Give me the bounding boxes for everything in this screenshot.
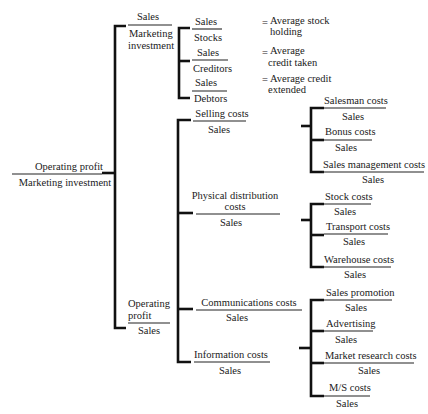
creditors-numerator: Sales: [197, 47, 219, 58]
creditors-denominator: Creditors: [193, 63, 232, 74]
info-denominator: Sales: [219, 365, 241, 376]
ratio-advertising: Advertising Sales: [324, 318, 376, 345]
selling-costs-numerator: Selling costs: [195, 108, 248, 119]
ratio-sales-marketing-investment: Sales Marketing investment: [128, 11, 174, 51]
level1-bracket: [115, 26, 126, 328]
comm-denominator: Sales: [226, 312, 248, 323]
bonus-numerator: Bonus costs: [325, 126, 375, 137]
stocks-numerator: Sales: [195, 16, 217, 27]
salesman-numerator: Salesman costs: [324, 95, 388, 106]
ratio-sales-creditors: Sales Creditors = Average credit taken: [192, 45, 318, 74]
promo-denominator: Sales: [345, 302, 367, 313]
ratio-information-costs: Information costs Sales: [194, 349, 270, 376]
ratio-salesman-costs: Salesman costs Sales: [324, 95, 388, 122]
stocks-meaning-line1: Average stock: [270, 15, 330, 26]
stocks-meaning-line2: holding: [270, 26, 303, 37]
ms-denominator: Sales: [336, 398, 358, 409]
comm-numerator: Communications costs: [201, 297, 296, 308]
bonus-denominator: Sales: [335, 142, 357, 153]
stocks-denominator: Stocks: [194, 32, 222, 43]
transport-denominator: Sales: [343, 236, 365, 247]
op-numerator-line1: Operating: [128, 298, 171, 309]
ratio-transport-costs: Transport costs Sales: [324, 221, 390, 247]
info-numerator: Information costs: [194, 349, 268, 360]
pd-denominator: Sales: [220, 217, 242, 228]
op-denominator: Sales: [138, 325, 160, 336]
mi-numerator: Sales: [137, 11, 159, 22]
ratio-sales-management-costs: Sales management costs Sales: [322, 159, 425, 185]
ratio-sales-debtors: Sales Debtors = Average credit extended: [192, 73, 331, 104]
advertising-numerator: Advertising: [326, 318, 376, 329]
ratio-market-research-costs: Market research costs Sales: [324, 350, 417, 376]
ratio-communications-costs: Communications costs Sales: [196, 297, 302, 323]
op-numerator-line2: profit: [128, 310, 151, 321]
promo-numerator: Sales promotion: [326, 287, 395, 298]
selling-costs-denominator: Sales: [208, 124, 230, 135]
root-ratio: Operating profit Marketing investment: [12, 161, 111, 188]
stock-costs-denominator: Sales: [334, 206, 356, 217]
debtors-meaning-line2: extended: [268, 84, 307, 95]
ratio-pyramid-diagram: Operating profit Marketing investment Sa…: [0, 0, 428, 414]
ratio-warehouse-costs: Warehouse costs Sales: [322, 254, 394, 280]
debtors-meaning-line1: Average credit: [270, 73, 331, 84]
ms-numerator: M/S costs: [329, 382, 371, 393]
root-numerator: Operating profit: [35, 161, 103, 172]
ratio-physical-distribution: Physical distribution costs Sales: [192, 190, 280, 228]
mr-denominator: Sales: [358, 365, 380, 376]
mi-denominator-line1: Marketing: [129, 28, 173, 39]
ratio-bonus-costs: Bonus costs Sales: [324, 126, 375, 153]
pd-numerator-line1: Physical distribution: [192, 190, 279, 201]
salesmgmt-numerator: Sales management costs: [323, 159, 425, 170]
creditors-meaning-line1: Average: [270, 45, 305, 56]
comm-children-bracket: [311, 300, 324, 396]
ratio-sales-stocks: Sales Stocks = Average stock holding: [192, 15, 330, 43]
warehouse-numerator: Warehouse costs: [324, 254, 394, 265]
creditors-meaning-line2: credit taken: [268, 57, 318, 68]
pd-numerator-line2: costs: [225, 201, 246, 212]
ratio-ms-costs: M/S costs Sales: [324, 382, 371, 409]
warehouse-denominator: Sales: [344, 269, 366, 280]
mi-denominator-line2: investment: [128, 40, 174, 51]
advertising-denominator: Sales: [335, 334, 357, 345]
debtors-denominator: Debtors: [194, 93, 227, 104]
stocks-equals: =: [262, 17, 268, 28]
ratio-operating-profit-sales: Operating profit Sales: [128, 298, 171, 336]
root-denominator: Marketing investment: [19, 177, 112, 188]
transport-numerator: Transport costs: [326, 221, 390, 232]
ratio-stock-costs: Stock costs Sales: [324, 191, 373, 217]
mr-numerator: Market research costs: [325, 350, 417, 361]
ratio-sales-promotion: Sales promotion Sales: [324, 287, 395, 313]
debtors-numerator: Sales: [195, 77, 217, 88]
salesman-denominator: Sales: [342, 111, 364, 122]
asset-bracket: [179, 28, 190, 98]
stock-costs-numerator: Stock costs: [325, 191, 373, 202]
cost-bracket: [178, 120, 191, 362]
salesmgmt-denominator: Sales: [362, 174, 384, 185]
ratio-selling-costs: Selling costs Sales: [193, 108, 249, 135]
